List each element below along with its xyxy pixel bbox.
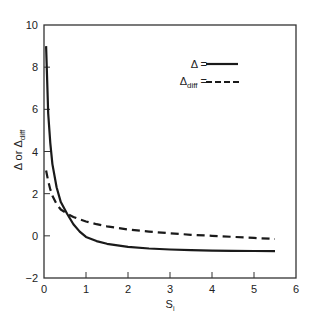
y-axis-label: Δ or Δdiff [12, 129, 27, 170]
x-tick-label: 5 [251, 283, 257, 295]
data-series [46, 46, 275, 251]
series-delta-line [46, 46, 275, 251]
legend-label-delta-diff: Δdiff = [180, 75, 207, 90]
series-delta-diff-line [46, 171, 275, 240]
x-tick-label: 0 [41, 283, 47, 295]
y-tick-label: 6 [32, 103, 38, 115]
y-tick-label: −2 [25, 272, 38, 284]
y-tick-label: 8 [32, 61, 38, 73]
x-axis-label: Si [166, 298, 175, 312]
y-tick-label: 10 [26, 19, 38, 31]
x-axis-ticks: 0123456 [41, 272, 299, 295]
x-tick-label: 1 [83, 283, 89, 295]
chart: −20246810 0123456 Δ = Δdiff = Si Δ or Δd… [0, 0, 314, 322]
legend: Δ = Δdiff = [180, 58, 240, 90]
y-tick-label: 0 [32, 230, 38, 242]
y-tick-label: 4 [32, 146, 38, 158]
y-tick-label: 2 [32, 188, 38, 200]
plot-frame [44, 25, 296, 278]
legend-label-delta: Δ = [191, 58, 207, 70]
x-tick-label: 6 [293, 283, 299, 295]
x-tick-label: 4 [209, 283, 215, 295]
x-tick-label: 3 [167, 283, 173, 295]
x-tick-label: 2 [125, 283, 131, 295]
